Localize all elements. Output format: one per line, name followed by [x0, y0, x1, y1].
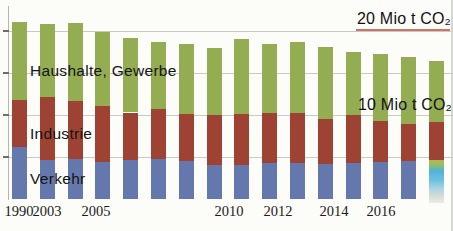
- y-axis-tick-5: [3, 156, 9, 158]
- plot-area: Haushalte, Gewerbe Industrie Verkehr 20 …: [0, 0, 453, 231]
- bar-2017-industrie: [429, 122, 444, 161]
- bar-2005-industrie: [95, 106, 110, 162]
- bar-2011-verkehr: [262, 163, 277, 199]
- bar-2009-haushalte-gewerbe: [207, 48, 222, 115]
- y-axis-tick-15: [3, 72, 9, 74]
- bar-2012-industrie: [290, 113, 305, 163]
- bar-2005-verkehr: [95, 162, 110, 199]
- bar-2015-verkehr: [373, 162, 388, 199]
- bar-1990-verkehr: [12, 147, 27, 199]
- bar-1990-haushalte-gewerbe: [12, 22, 27, 100]
- bar-2007-verkehr: [151, 159, 166, 199]
- x-axis-label-2014: 2014: [320, 203, 349, 220]
- bar-2013-industrie: [318, 119, 333, 164]
- bar-2011-haushalte-gewerbe: [262, 44, 277, 114]
- bar-2014-verkehr: [346, 163, 361, 199]
- x-axis-label-1990: 1990: [5, 203, 34, 220]
- series-label-haushalte-gewerbe: Haushalte, Gewerbe: [30, 62, 177, 80]
- bar-2003-haushalte-gewerbe: [40, 24, 55, 97]
- x-axis-label-2016: 2016: [367, 203, 396, 220]
- x-axis-label-2010: 2010: [215, 203, 244, 220]
- bar-2010-haushalte-gewerbe: [234, 39, 249, 114]
- scale-annotation-20-mio-t: 20 Mio t CO₂: [351, 10, 452, 29]
- x-axis-label-2003: 2003: [33, 203, 62, 220]
- bar-1990-industrie: [12, 100, 27, 147]
- bar-2012-haushalte-gewerbe: [290, 42, 305, 113]
- y-axis-tick-10: [3, 114, 9, 116]
- x-axis-label-2005: 2005: [82, 203, 111, 220]
- bar-2011-industrie: [262, 113, 277, 163]
- scale-annotation-10-mio-t: 10 Mio t CO₂: [358, 96, 452, 114]
- bar-2015-industrie: [373, 121, 388, 162]
- bar-2016-verkehr: [401, 161, 416, 199]
- bar-2008-industrie: [179, 114, 194, 161]
- bar-2008-verkehr: [179, 161, 194, 199]
- bar-2010-verkehr: [234, 165, 249, 199]
- red-underline-mark: [356, 29, 450, 31]
- y-axis-line: [8, 6, 9, 200]
- bar-2008-haushalte-gewerbe: [179, 44, 194, 115]
- bar-2012-verkehr: [290, 163, 305, 199]
- bar-2013-verkehr: [318, 164, 333, 199]
- bar-2009-verkehr: [207, 165, 222, 199]
- bar-2007-industrie: [151, 109, 166, 159]
- bar-2006-verkehr: [123, 160, 138, 199]
- bar-2016-industrie: [401, 124, 416, 161]
- bar-2016-haushalte-gewerbe: [401, 57, 416, 124]
- x-axis-label-2012: 2012: [264, 203, 293, 220]
- y-axis-tick-20: [3, 30, 9, 32]
- photographed-chart-page: Haushalte, Gewerbe Industrie Verkehr 20 …: [0, 0, 453, 231]
- bar-2017-verkehr: [429, 160, 444, 203]
- series-label-industrie: Industrie: [30, 125, 92, 143]
- series-label-verkehr: Verkehr: [30, 170, 86, 188]
- bar-2009-industrie: [207, 115, 222, 165]
- bar-2013-haushalte-gewerbe: [318, 47, 333, 119]
- bar-2014-industrie: [346, 115, 361, 163]
- bar-2010-industrie: [234, 114, 249, 165]
- bar-2006-industrie: [123, 113, 138, 161]
